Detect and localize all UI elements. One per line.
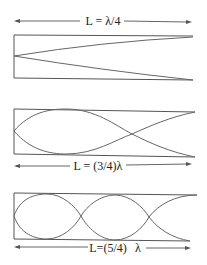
standing-wave-diagram: L = λ/4 L = (3/4)λ L=(5/4) λ <box>0 0 207 265</box>
arrow-right-icon <box>186 162 192 166</box>
arrow-right-icon <box>186 20 192 24</box>
arrow-left-icon <box>14 245 20 249</box>
panel-1-label: L = λ/4 <box>86 14 121 28</box>
wave-upper-1 <box>14 37 193 56</box>
arrow-left-icon <box>14 19 20 23</box>
panel-quarter-wave: L = λ/4 <box>14 14 193 80</box>
panel-2-label: L = (3/4)λ <box>74 159 123 173</box>
wave-upper-3 <box>14 194 197 217</box>
arrow-left-icon <box>14 164 20 168</box>
panel-3-label: L=(5/4) <box>89 241 126 255</box>
panel-3-lambda: λ <box>135 241 141 255</box>
arrow-right-icon <box>185 246 191 250</box>
panel-five-quarter-wave: L=(5/4) λ <box>14 193 197 255</box>
panel-three-quarter-wave: L = (3/4)λ <box>14 109 195 173</box>
wave-lower-3 <box>14 216 190 241</box>
tube-outline-3 <box>14 193 197 241</box>
tube-outline-1 <box>14 35 193 80</box>
wave-lower-1 <box>14 56 193 80</box>
